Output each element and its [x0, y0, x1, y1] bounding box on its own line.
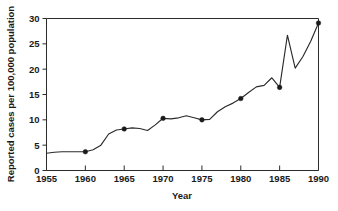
x-axis-tick-label: 1965 — [114, 173, 136, 184]
y-axis-tick-label: 15 — [29, 89, 40, 100]
y-axis-tick-group: 051015202530 — [29, 13, 47, 176]
data-point-marker — [316, 21, 321, 26]
y-axis-tick-label: 25 — [29, 38, 40, 49]
x-axis-tick-label: 1980 — [230, 173, 251, 184]
y-axis-tick-label: 20 — [29, 64, 40, 75]
x-axis-tick-label: 1975 — [191, 173, 213, 184]
chart-canvas: 051015202530 195519601965197019751980198… — [0, 0, 338, 211]
y-axis-title: Reported cases per 100,000 population — [5, 6, 16, 183]
x-axis-tick-group: 19551960196519701975198019851990 — [36, 166, 329, 184]
y-axis-tick-label: 30 — [29, 13, 40, 24]
x-axis-tick-label: 1990 — [308, 173, 329, 184]
data-point-marker — [122, 127, 127, 132]
plot-frame — [47, 19, 319, 171]
data-point-marker — [161, 116, 166, 121]
x-axis-tick-label: 1985 — [269, 173, 291, 184]
x-axis-tick-label: 1960 — [75, 173, 96, 184]
data-point-marker — [83, 149, 88, 154]
y-axis-tick-label: 10 — [29, 114, 40, 125]
data-marker-group — [83, 21, 321, 154]
x-axis-title: Year — [172, 190, 192, 201]
x-axis-tick-label: 1955 — [36, 173, 58, 184]
line-chart-figure: 051015202530 195519601965197019751980198… — [0, 0, 338, 211]
data-point-marker — [277, 85, 282, 90]
x-axis-tick-label: 1970 — [153, 173, 174, 184]
data-point-marker — [238, 96, 243, 101]
data-point-marker — [200, 118, 205, 123]
y-axis-tick-label: 5 — [34, 140, 40, 151]
